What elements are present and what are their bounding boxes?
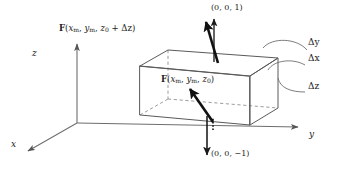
delta-x-label: Δx [308, 54, 320, 63]
delta-z-term-top: + Δz [111, 23, 131, 33]
z-axis-label: z [32, 49, 37, 58]
delta-y-label: Δy [308, 38, 320, 47]
x-axis-line [28, 123, 77, 151]
delta-z-leader [278, 78, 305, 92]
unit-normal-bottom-label: (0, 0, −1) [211, 150, 249, 158]
field-vector-top-label: F(xm, ym, z0 + Δz) [59, 24, 135, 33]
field-vector-bottom-label: F(xm, ym, z0) [161, 75, 214, 84]
figure-vector-canvas [0, 0, 340, 170]
x-axis-label: x [11, 140, 16, 149]
delta-x-leader [268, 61, 305, 70]
y-axis-label: y [309, 130, 314, 139]
delta-z-label: Δz [308, 82, 319, 91]
field-vector-top-arrow [206, 22, 218, 63]
bottom-face-vectors [190, 89, 213, 155]
hidden-edge-bottom-back-left [140, 99, 168, 115]
hidden-edge-bottom-back-right [168, 99, 278, 108]
flux-box-figure: z y x F(xm, ym, z0 + Δz) F(xm, ym, z0) (… [0, 0, 340, 170]
box-visible-edges [140, 50, 278, 125]
coordinate-axes [28, 44, 298, 151]
delta-y-leader [263, 40, 307, 50]
dimension-leaders [263, 40, 307, 92]
top-face-vectors [206, 19, 218, 63]
unit-normal-top-label: (0, 0, 1) [211, 4, 243, 12]
y-axis-line [77, 123, 298, 127]
z-subscript-top: 0 [105, 26, 109, 33]
box-right-face [250, 58, 278, 125]
paren-close-bottom: ) [211, 74, 214, 84]
paren-close-top: ) [132, 23, 135, 33]
field-vector-bottom-arrow [190, 89, 213, 122]
